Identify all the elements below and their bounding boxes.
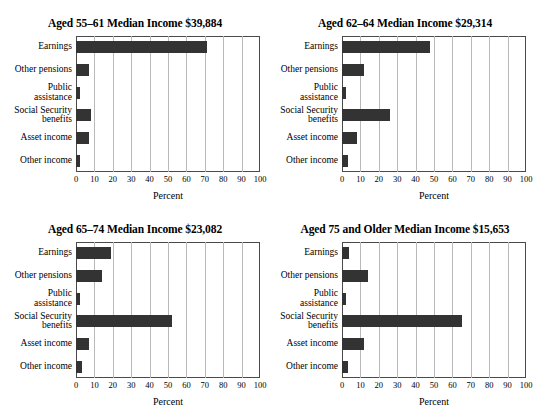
category-label: Other income — [270, 361, 338, 373]
chart-grid: Aged 55–61 Median Income $39,884 Earning… — [0, 0, 540, 412]
x-axis-ticks: 0102030405060708090100 — [342, 172, 526, 186]
chart-title: Aged 75 and Older Median Income $15,653 — [270, 223, 540, 235]
x-tick-label: 50 — [164, 380, 173, 390]
x-tick-label: 60 — [448, 380, 457, 390]
x-tick-label: 50 — [164, 174, 173, 184]
bar — [342, 155, 348, 167]
category-label: Earnings — [270, 41, 338, 53]
bar-row — [342, 338, 526, 350]
chart-panel-3: Aged 75 and Older Median Income $15,653 … — [270, 206, 540, 412]
bar — [76, 361, 82, 373]
x-tick-label: 30 — [127, 174, 136, 184]
x-tick-label: 40 — [411, 380, 420, 390]
bar-row — [76, 155, 260, 167]
bar — [342, 338, 364, 350]
category-labels: EarningsOther pensionsPublic assistanceS… — [270, 242, 338, 378]
category-label: Public assistance — [270, 87, 338, 99]
x-tick-label: 20 — [109, 380, 118, 390]
category-label: Other income — [0, 155, 72, 167]
bar — [76, 155, 80, 167]
bar-row — [76, 270, 260, 282]
category-labels: EarningsOther pensionsPublic assistanceS… — [0, 242, 72, 378]
bar — [76, 41, 207, 53]
bar — [342, 132, 357, 144]
bar-row — [76, 315, 260, 327]
x-tick-label: 0 — [74, 174, 78, 184]
category-label: Asset income — [270, 132, 338, 144]
bar — [342, 109, 390, 121]
category-label: Public assistance — [0, 293, 72, 305]
bar-row — [76, 338, 260, 350]
bar-row — [76, 247, 260, 259]
bar-row — [342, 87, 526, 99]
category-label: Other pensions — [270, 270, 338, 282]
x-axis-label: Percent — [76, 190, 260, 201]
category-label: Social Security benefits — [270, 109, 338, 121]
chart-panel-0: Aged 55–61 Median Income $39,884 Earning… — [0, 0, 270, 206]
bar-row — [76, 64, 260, 76]
bars-container — [76, 242, 260, 378]
plot-wrapper: EarningsOther pensionsPublic assistanceS… — [342, 242, 526, 378]
chart-panel-2: Aged 65–74 Median Income $23,082 Earning… — [0, 206, 270, 412]
bar — [76, 338, 89, 350]
x-axis-label: Percent — [342, 396, 526, 407]
category-label: Social Security benefits — [270, 315, 338, 327]
chart-title: Aged 55–61 Median Income $39,884 — [0, 17, 270, 29]
bar-row — [342, 109, 526, 121]
bar — [342, 293, 346, 305]
plot-wrapper: EarningsOther pensionsPublic assistanceS… — [76, 242, 260, 378]
x-tick-label: 50 — [430, 174, 439, 184]
x-tick-label: 40 — [411, 174, 420, 184]
x-tick-label: 20 — [109, 174, 118, 184]
x-tick-label: 10 — [90, 380, 99, 390]
x-tick-label: 100 — [520, 174, 533, 184]
bar-row — [76, 87, 260, 99]
bar-row — [342, 293, 526, 305]
x-tick-label: 100 — [254, 174, 267, 184]
x-tick-label: 80 — [485, 380, 494, 390]
category-label: Public assistance — [0, 87, 72, 99]
x-tick-label: 0 — [340, 174, 344, 184]
x-tick-label: 90 — [503, 380, 512, 390]
bar — [342, 64, 364, 76]
x-axis-label: Percent — [342, 190, 526, 201]
bar — [76, 109, 91, 121]
bar — [342, 247, 349, 259]
bar — [342, 41, 430, 53]
bar-row — [76, 132, 260, 144]
bar — [76, 293, 80, 305]
bar — [76, 132, 89, 144]
bar-row — [342, 361, 526, 373]
x-tick-label: 70 — [201, 174, 210, 184]
bar — [342, 315, 462, 327]
bar — [76, 247, 111, 259]
x-tick-label: 40 — [145, 380, 154, 390]
bar-row — [76, 361, 260, 373]
bar — [342, 270, 368, 282]
x-axis-ticks: 0102030405060708090100 — [76, 378, 260, 392]
x-tick-label: 10 — [90, 174, 99, 184]
chart-title: Aged 62–64 Median Income $29,314 — [270, 17, 540, 29]
bar-row — [76, 293, 260, 305]
x-axis-label: Percent — [76, 396, 260, 407]
category-label: Asset income — [270, 338, 338, 350]
x-tick-label: 40 — [145, 174, 154, 184]
x-tick-label: 100 — [254, 380, 267, 390]
bar-row — [342, 64, 526, 76]
category-label: Social Security benefits — [0, 109, 72, 121]
x-tick-label: 60 — [182, 174, 191, 184]
x-tick-label: 20 — [375, 380, 384, 390]
bars-container — [76, 36, 260, 172]
x-tick-label: 100 — [520, 380, 533, 390]
x-tick-label: 0 — [74, 380, 78, 390]
category-label: Other income — [270, 155, 338, 167]
category-label: Earnings — [270, 247, 338, 259]
bar-row — [342, 132, 526, 144]
x-tick-label: 70 — [201, 380, 210, 390]
bar-row — [342, 41, 526, 53]
category-label: Asset income — [0, 338, 72, 350]
x-tick-label: 20 — [375, 174, 384, 184]
category-label: Other pensions — [0, 270, 72, 282]
bar — [342, 87, 346, 99]
bars-container — [342, 36, 526, 172]
